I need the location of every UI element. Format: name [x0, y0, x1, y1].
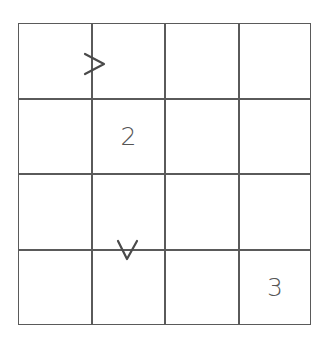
- cell-r2-c2[interactable]: [165, 174, 239, 249]
- cell-r2-c0[interactable]: [19, 174, 92, 249]
- cell-r3-c0[interactable]: [19, 250, 92, 324]
- cell-r1-c2[interactable]: [165, 99, 239, 173]
- cell-r3-c2[interactable]: [165, 250, 239, 324]
- cell-r0-c3[interactable]: [239, 24, 311, 98]
- greater-than-icon: [83, 51, 107, 79]
- cell-r0-c0[interactable]: [19, 24, 92, 98]
- less-than-down-icon: [116, 239, 140, 263]
- cell-r2-c3[interactable]: [239, 174, 311, 249]
- cell-r0-c2[interactable]: [165, 24, 239, 98]
- cell-r2-c1[interactable]: [92, 174, 165, 249]
- cell-r1-c3[interactable]: [239, 99, 311, 173]
- cell-r1-c0[interactable]: [19, 99, 92, 173]
- cell-r1-c1: 2: [92, 99, 165, 173]
- puzzle-grid: 2 3: [18, 23, 311, 325]
- cell-r3-c3: 3: [239, 250, 311, 324]
